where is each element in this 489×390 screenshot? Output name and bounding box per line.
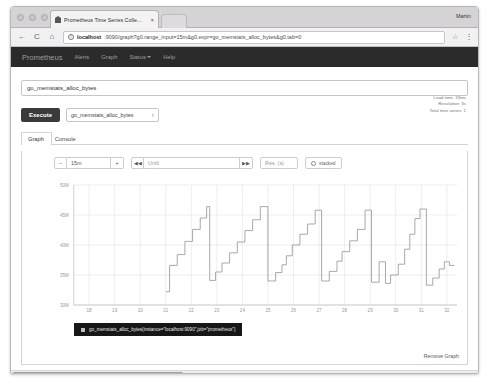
tab-console[interactable]: Console — [52, 132, 84, 145]
nav-item-graph[interactable]: Graph — [101, 54, 117, 60]
query-area: Load time: 33ms Resolution: 3s Total tim… — [11, 67, 478, 96]
tab-graph[interactable]: Graph — [21, 132, 52, 145]
execute-button[interactable]: Execute — [21, 108, 60, 122]
chart-area[interactable]: 30M35M40M45M50M 181920212223242526272829… — [22, 177, 467, 297]
svg-text:32: 32 — [444, 308, 450, 313]
chart-legend[interactable]: go_memstats_alloc_bytes{instance="localh… — [74, 323, 242, 336]
svg-text:20: 20 — [138, 308, 144, 313]
browser-tab-title: Prometheus Time Series Colle... — [64, 17, 147, 23]
prometheus-app: Prometheus Alerts Graph Status Help Load… — [11, 47, 478, 374]
step-forward-button[interactable]: ▶▶ — [240, 157, 253, 169]
series-line-go-memstats-alloc-bytes — [166, 207, 455, 292]
prometheus-favicon-icon — [55, 16, 61, 23]
metric-select-value: go_memstats_alloc_bytes — [71, 112, 133, 118]
svg-text:31: 31 — [419, 308, 425, 313]
chevron-down-icon — [147, 56, 151, 58]
expression-input[interactable] — [21, 80, 468, 96]
chart-gridlines — [74, 185, 457, 305]
window-traffic-lights[interactable] — [17, 14, 48, 21]
url-host: localhost — [77, 34, 101, 40]
increase-range-button[interactable]: + — [111, 157, 124, 169]
select-arrows-icon: ↕ — [152, 113, 155, 118]
scrollbar-thumb[interactable] — [13, 372, 183, 374]
svg-text:50M: 50M — [60, 183, 69, 188]
svg-text:35M: 35M — [60, 273, 69, 278]
decrease-range-button[interactable]: − — [54, 157, 67, 169]
svg-text:19: 19 — [112, 308, 118, 313]
legend-color-swatch — [81, 328, 85, 332]
svg-text:18: 18 — [87, 308, 93, 313]
execute-row: Execute go_memstats_alloc_bytes ↕ — [11, 96, 478, 122]
stacked-label: stacked — [319, 161, 336, 166]
browser-tab[interactable]: Prometheus Time Series Colle... × — [50, 10, 159, 28]
graph-controls: − 15m + ◀◀ Until ▶▶ Res. (s) stacked — [22, 151, 467, 169]
svg-text:26: 26 — [291, 308, 297, 313]
total-time-series-text: Total time series: 1 — [429, 108, 466, 114]
close-tab-icon[interactable]: × — [150, 17, 154, 23]
graph-panel: − 15m + ◀◀ Until ▶▶ Res. (s) stacked — [21, 151, 468, 365]
site-info-icon[interactable]: i — [68, 34, 74, 40]
chart-x-axis-labels: 181920212223242526272829303132 — [87, 308, 450, 313]
remove-graph-link[interactable]: Remove Graph — [424, 353, 459, 359]
browser-profile-name[interactable]: Martin — [456, 13, 471, 19]
step-backward-button[interactable]: ◀◀ — [131, 157, 144, 169]
legend-series-label: go_memstats_alloc_bytes{instance="localh… — [89, 327, 235, 332]
svg-text:29: 29 — [368, 308, 374, 313]
close-window-button[interactable] — [17, 14, 24, 21]
nav-item-status-label: Status — [129, 54, 145, 60]
panel-tabs: Graph Console — [21, 131, 468, 145]
app-navbar: Prometheus Alerts Graph Status Help — [11, 47, 478, 67]
browser-tab-strip: Prometheus Time Series Colle... × Martin — [11, 7, 478, 28]
time-control-group: ◀◀ Until ▶▶ — [131, 157, 253, 169]
home-icon[interactable]: ⌂ — [48, 33, 56, 41]
svg-text:40M: 40M — [60, 243, 69, 248]
svg-text:23: 23 — [214, 308, 220, 313]
new-tab-button[interactable] — [161, 14, 187, 28]
resolution-input[interactable]: Res. (s) — [260, 157, 298, 169]
nav-item-help[interactable]: Help — [163, 54, 175, 60]
svg-text:21: 21 — [163, 308, 169, 313]
minimize-window-button[interactable] — [29, 14, 36, 21]
nav-item-alerts[interactable]: Alerts — [74, 54, 89, 60]
svg-text:25: 25 — [265, 308, 271, 313]
time-series-chart[interactable]: 30M35M40M45M50M 181920212223242526272829… — [22, 177, 467, 332]
reload-icon[interactable]: C — [33, 33, 41, 41]
maximize-window-button[interactable] — [41, 14, 48, 21]
svg-text:28: 28 — [342, 308, 348, 313]
radio-icon — [311, 161, 316, 166]
range-input[interactable]: 15m — [67, 157, 111, 169]
browser-window: Prometheus Time Series Colle... × Martin… — [10, 6, 479, 374]
bookmark-star-icon[interactable]: ☆ — [452, 33, 458, 41]
svg-text:22: 22 — [189, 308, 195, 313]
svg-text:30M: 30M — [60, 303, 69, 308]
svg-text:45M: 45M — [60, 213, 69, 218]
svg-text:24: 24 — [240, 308, 246, 313]
svg-text:27: 27 — [317, 308, 323, 313]
browser-toolbar: ← C ⌂ i localhost :9090/graph?g0.range_i… — [11, 28, 478, 47]
back-icon[interactable]: ← — [18, 33, 26, 41]
chart-y-axis-labels: 30M35M40M45M50M — [60, 183, 69, 308]
end-time-input[interactable]: Until — [144, 157, 240, 169]
nav-item-status[interactable]: Status — [129, 54, 151, 60]
stacked-toggle[interactable]: stacked — [305, 157, 342, 169]
url-path: :9090/graph?g0.range_input=15m&g0.expr=g… — [104, 34, 301, 40]
navbar-brand[interactable]: Prometheus — [22, 53, 62, 62]
query-stats: Load time: 33ms Resolution: 3s Total tim… — [429, 95, 466, 114]
metric-select-dropdown[interactable]: go_memstats_alloc_bytes ↕ — [66, 108, 159, 122]
svg-text:30: 30 — [393, 308, 399, 313]
range-control-group: − 15m + — [54, 157, 124, 169]
horizontal-scrollbar[interactable] — [11, 370, 478, 374]
browser-menu-icon[interactable]: ⋮ — [465, 35, 471, 40]
url-bar[interactable]: i localhost :9090/graph?g0.range_input=1… — [63, 31, 445, 44]
